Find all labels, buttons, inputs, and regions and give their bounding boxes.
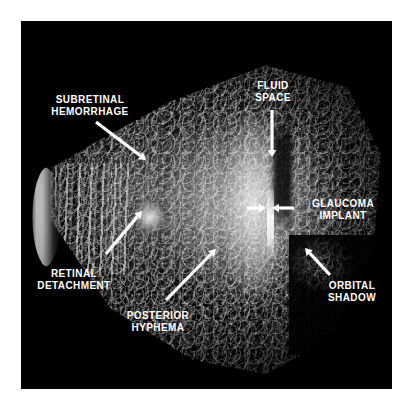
annotation-label-subretinal-hemorrhage: SUBRETINAL HEMORRHAGE	[40, 94, 140, 117]
annotation-label-retinal-detachment: RETINAL DETACHMENT	[22, 268, 126, 291]
ultrasound-figure: SUBRETINAL HEMORRHAGEFLUID SPACEGLAUCOMA…	[0, 0, 413, 410]
annotation-label-layer: SUBRETINAL HEMORRHAGEFLUID SPACEGLAUCOMA…	[0, 0, 413, 410]
annotation-label-orbital-shadow: ORBITAL SHADOW	[312, 280, 392, 303]
annotation-label-fluid-space: FLUID SPACE	[243, 80, 303, 103]
annotation-label-posterior-hyphema: POSTERIOR HYPHEMA	[110, 310, 206, 333]
annotation-label-glaucoma-implant: GLAUCOMA IMPLANT	[300, 198, 386, 221]
